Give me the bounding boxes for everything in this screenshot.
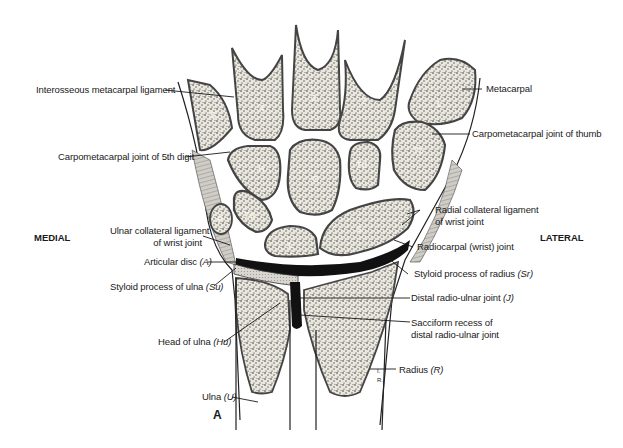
bone-label-trapezium: Tz xyxy=(413,145,423,155)
bone-label-triquetrum: Tq xyxy=(244,210,255,220)
label-interosseous-metacarpal-ligament: Interosseous metacarpal ligament xyxy=(36,84,175,96)
bone-label-mc2: 2 xyxy=(361,96,366,106)
bone-label-capitate: C xyxy=(312,174,319,184)
label-radius: Radius (R) xyxy=(399,364,443,376)
bone-label-pisiform: P xyxy=(217,214,223,224)
label-distal-radioulnar-joint: Distal radio-ulnar joint (J) xyxy=(411,292,514,304)
carpal-bones: H C Td Tz Tq P L S xyxy=(210,122,445,257)
orientation-lateral: LATERAL xyxy=(540,232,584,243)
bone-label-mc3: 3 xyxy=(311,93,316,103)
bone-label-scaphoid: S xyxy=(356,224,362,234)
bone-label-mc5: 5 xyxy=(210,110,215,120)
label-metacarpal: Metacarpal xyxy=(486,83,532,95)
distal-radioulnar-cavity xyxy=(290,282,302,329)
label-carpometacarpal-joint-5th: Carpometacarpal joint of 5th digit xyxy=(58,151,194,163)
bone-label-mc1: 1 xyxy=(436,99,441,109)
radius-bone: I. R. xyxy=(304,262,398,430)
wrist-coronal-section-figure: 5 4 3 2 1 H C Td Tz xyxy=(0,0,623,448)
label-radial-collateral-ligament: Radial collateral ligament of wrist join… xyxy=(435,204,539,228)
label-carpometacarpal-joint-thumb: Carpometacarpal joint of thumb xyxy=(472,128,602,140)
orientation-medial: MEDIAL xyxy=(34,232,70,243)
label-styloid-process-ulna: Styloid process of ulna (Su) xyxy=(110,281,223,293)
svg-text:R.: R. xyxy=(377,377,383,383)
label-head-of-ulna: Head of ulna (Hu) xyxy=(158,336,231,348)
bone-label-lunate: L xyxy=(288,240,294,250)
panel-letter: A xyxy=(213,408,222,422)
bone-label-mc4: 4 xyxy=(259,103,264,113)
label-articular-disc: Articular disc (A) xyxy=(144,256,212,268)
bone-label-trapezoid: Td xyxy=(356,160,367,170)
ulna-bone xyxy=(236,278,290,430)
label-radiocarpal-joint: Radiocarpal (wrist) joint xyxy=(417,241,514,253)
label-sacciform-recess: Sacciform recess of distal radio-ulnar j… xyxy=(411,317,499,341)
label-ulna: Ulna (U) xyxy=(202,391,237,403)
label-styloid-process-radius: Styloid process of radius (Sr) xyxy=(414,268,533,280)
label-ulnar-collateral-ligament: Ulnar collateral ligament of wrist joint xyxy=(110,225,202,249)
bone-label-hamate: H xyxy=(258,164,265,174)
